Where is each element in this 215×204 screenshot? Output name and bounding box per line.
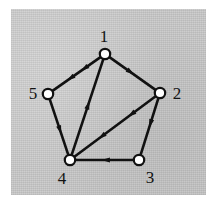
nodes-layer [43, 49, 165, 165]
edge-5-to-4-arrowhead-1 [56, 125, 61, 134]
graph-node-5 [43, 89, 53, 99]
node-label-1: 1 [100, 28, 109, 45]
graph-node-4 [65, 155, 75, 165]
node-label-3: 3 [146, 169, 155, 186]
graph-node-1 [100, 49, 110, 59]
edge-4-to-1-arrowhead-1 [84, 101, 89, 110]
edge-2-to-3-arrowhead-1 [149, 119, 154, 128]
edge-3-to-4-arrowhead-1 [101, 157, 110, 162]
node-label-4: 4 [58, 170, 67, 187]
graph-node-2 [155, 88, 165, 98]
figure-canvas: 12345 [0, 0, 215, 204]
node-label-5: 5 [29, 85, 38, 102]
graph-node-3 [134, 155, 144, 165]
edges-layer [49, 57, 158, 163]
node-label-2: 2 [173, 85, 182, 102]
